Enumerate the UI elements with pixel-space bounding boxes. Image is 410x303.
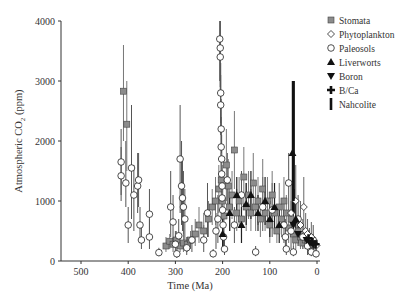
- paleosol-marker: [125, 222, 132, 229]
- stomata-marker: [120, 88, 126, 94]
- x-tick-label: 300: [168, 266, 183, 277]
- stomata-marker: [223, 162, 229, 168]
- series-nahcolite: [292, 189, 295, 201]
- paleosol-marker: [210, 251, 217, 258]
- x-tick-label: 500: [74, 266, 89, 277]
- paleosol-marker: [219, 195, 226, 202]
- y-tick-label: 4000: [35, 16, 55, 27]
- y-axis-ticks: 01000200030004000: [35, 16, 61, 267]
- paleosol-marker: [200, 237, 207, 244]
- x-tick-label: 400: [121, 266, 136, 277]
- stomata-marker: [236, 198, 242, 204]
- paleosol-marker: [215, 216, 222, 223]
- paleosol-marker: [218, 126, 225, 133]
- legend-label: Boron: [339, 72, 363, 82]
- b-ca-marker: [327, 86, 335, 94]
- stomata-marker: [255, 198, 261, 204]
- legend-item-paleosols: Paleosols: [328, 44, 375, 54]
- paleosol-marker: [219, 183, 226, 190]
- paleosol-marker: [167, 204, 174, 211]
- paleosol-marker: [259, 204, 266, 211]
- y-tick-label: 1000: [35, 196, 55, 207]
- stomata-marker: [218, 177, 224, 183]
- paleosol-marker: [137, 222, 144, 229]
- legend-item-b-ca: B/Ca: [327, 86, 359, 96]
- stomata-marker: [248, 210, 254, 216]
- paleosol-marker: [217, 90, 224, 97]
- stomata-marker: [250, 180, 256, 186]
- x-axis-ticks: 5004003002001000: [74, 261, 320, 277]
- paleosol-marker: [134, 183, 141, 190]
- x-tick-label: 0: [315, 266, 320, 277]
- paleosol-marker: [128, 165, 135, 172]
- paleosol-marker: [219, 207, 226, 214]
- nahcolite-marker: [330, 98, 333, 110]
- paleosol-marker: [217, 102, 224, 109]
- paleosol-marker: [118, 173, 125, 180]
- nahcolite-marker: [292, 189, 295, 201]
- liverwort-marker: [327, 58, 335, 65]
- paleosol-marker: [174, 251, 181, 258]
- stomata-marker: [213, 198, 219, 204]
- y-axis-title: Atmospheric CO2 (ppm): [13, 89, 27, 193]
- stomata-marker: [279, 216, 285, 222]
- paleosol-marker: [172, 241, 179, 248]
- paleosol-marker: [138, 237, 145, 244]
- stomata-marker: [257, 216, 263, 222]
- paleosol-marker: [216, 36, 223, 43]
- stomata-marker: [205, 216, 211, 222]
- paleosol-marker: [231, 222, 238, 229]
- legend-label: Nahcolite: [339, 100, 376, 110]
- stomata-marker: [281, 198, 287, 204]
- legend: StomataPhytoplanktonPaleosolsLiverwortsB…: [327, 16, 395, 111]
- stomata-marker: [253, 204, 259, 210]
- paleosol-marker: [217, 54, 224, 61]
- x-tick-label: 100: [262, 266, 277, 277]
- stomata-marker: [274, 228, 280, 234]
- legend-label: Stomata: [339, 16, 371, 26]
- paleosol-marker: [283, 246, 290, 253]
- stomata-marker: [234, 210, 240, 216]
- legend-label: Paleosols: [339, 44, 375, 54]
- stomata-marker: [201, 228, 207, 234]
- paleosol-marker: [285, 180, 292, 187]
- boron-marker: [327, 73, 335, 80]
- phytoplankton-marker: [328, 31, 335, 38]
- stomata-marker: [124, 121, 130, 127]
- paleosol-marker: [328, 45, 335, 52]
- stomata-marker: [209, 204, 215, 210]
- paleosol-marker: [156, 249, 163, 256]
- paleosol-marker: [123, 180, 130, 187]
- stomata-marker: [225, 183, 231, 189]
- stomata-marker: [196, 222, 202, 228]
- stomata-marker: [328, 17, 334, 23]
- legend-label: B/Ca: [339, 86, 359, 96]
- x-axis-title: Time (Ma): [167, 280, 213, 292]
- paleosol-marker: [218, 144, 225, 151]
- liverwort-marker: [288, 149, 296, 156]
- paleosol-marker: [175, 233, 182, 240]
- plot-area: [118, 21, 320, 258]
- paleosol-marker: [118, 159, 125, 166]
- paleosol-marker: [252, 249, 259, 256]
- paleosol-marker: [183, 245, 190, 252]
- stomata-marker: [192, 231, 198, 237]
- paleosol-marker: [178, 183, 185, 190]
- paleosol-marker: [221, 246, 228, 253]
- paleosol-marker: [146, 211, 153, 218]
- legend-item-stomata: Stomata: [328, 16, 371, 26]
- paleosol-marker: [204, 210, 211, 217]
- x-tick-label: 200: [215, 266, 230, 277]
- paleosol-marker: [180, 204, 187, 211]
- stomata-marker: [241, 174, 247, 180]
- paleosol-marker: [217, 45, 224, 52]
- liverwort-marker: [219, 230, 227, 237]
- paleosol-marker: [290, 249, 297, 256]
- paleosol-marker: [146, 234, 153, 241]
- co2-scatter-chart: 01000200030004000 5004003002001000 Time …: [0, 0, 410, 303]
- y-tick-label: 3000: [35, 76, 55, 87]
- paleosol-marker: [224, 177, 231, 184]
- stomata-marker: [267, 222, 273, 228]
- legend-item-nahcolite: Nahcolite: [330, 98, 376, 110]
- legend-item-boron: Boron: [327, 72, 363, 82]
